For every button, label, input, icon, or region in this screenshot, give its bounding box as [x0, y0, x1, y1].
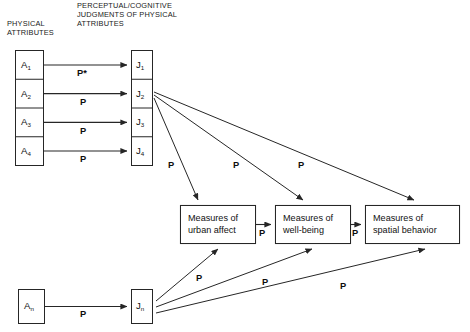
measure-box-spatial-behavior-label: Measures of spatial behavior	[366, 213, 459, 236]
path-label-jn-to-spatial-behavior: P	[340, 281, 346, 291]
node-label-j2: J2	[136, 88, 144, 100]
arrow-j-to-well-being	[154, 95, 303, 200]
measure-box-spatial-behavior: Measures of spatial behavior	[365, 205, 460, 244]
path-label-urban-affect-to-well-being: P	[259, 228, 265, 238]
path-label-jn-to-urban-affect: P	[196, 273, 202, 283]
path-label-a4-to-j4: P	[80, 154, 86, 164]
node-label-a2: A2	[21, 88, 31, 100]
node-label-a4: A4	[21, 145, 31, 157]
path-label-an-to-jn: P	[80, 309, 86, 319]
node-label-a3: A3	[21, 116, 31, 128]
node-label-j4: J4	[136, 145, 144, 157]
measure-box-well-being-label: Measures of well-being	[276, 213, 350, 236]
path-label-a2-to-j2: P	[80, 97, 86, 107]
arrow-j-to-spatial-behavior	[154, 92, 414, 200]
node-label-an: An	[24, 300, 34, 312]
node-label-jn: Jn	[136, 300, 144, 312]
node-label-a1: A1	[21, 59, 31, 71]
path-label-j-to-urban-affect: P	[168, 160, 174, 170]
arrow-jn-to-urban-affect	[156, 249, 218, 301]
path-label-j-to-spatial-behavior: P	[298, 160, 304, 170]
path-label-well-being-to-spatial-behavior: P	[352, 228, 358, 238]
measure-box-urban-affect-label: Measures of urban affect	[181, 213, 255, 236]
node-label-j3: J3	[136, 116, 144, 128]
path-label-a1-to-j1: P*	[77, 68, 87, 78]
measure-box-well-being: Measures of well-being	[275, 205, 351, 244]
path-label-jn-to-well-being: P	[262, 277, 268, 287]
node-label-j1: J1	[136, 59, 144, 71]
measure-box-urban-affect: Measures of urban affect	[180, 205, 256, 244]
arrow-j-to-urban-affect	[154, 98, 198, 200]
arrow-jn-to-well-being	[156, 249, 312, 307]
path-label-j-to-well-being: P	[233, 160, 239, 170]
diagram-canvas: PHYSICAL ATTRIBUTES PERCEPTUAL/COGNITIVE…	[0, 0, 470, 332]
path-label-a3-to-j3: P	[80, 126, 86, 136]
